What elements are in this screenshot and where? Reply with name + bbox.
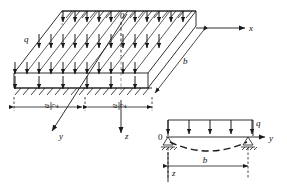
- beam-span-dimension: [168, 148, 248, 178]
- diagram-canvas: q 0 x y z b a 2 a 2: [0, 0, 287, 189]
- slab-load-label: q: [24, 34, 29, 44]
- axis-z-label: z: [124, 131, 129, 141]
- load-arrows-bottom-face: [15, 76, 135, 89]
- dimension-a-line: [14, 97, 152, 111]
- beam-load-label: q: [256, 118, 261, 128]
- beam-support-right: [241, 137, 257, 150]
- beam-deflection-curve: [170, 142, 247, 151]
- dimension-a-half-left: a 2: [42, 102, 60, 110]
- dimension-a-half-right: a 2: [110, 102, 128, 110]
- fraction-numerator-right: a: [110, 104, 119, 108]
- fraction-denominator-right: 2: [119, 104, 128, 108]
- load-arrows-middle-row: [39, 34, 159, 48]
- beam-load-arrows: [168, 120, 252, 134]
- beam-axis-y-label: y: [268, 133, 273, 143]
- engineering-diagram: q 0 x y z b a 2 a 2: [0, 0, 287, 189]
- fraction-numerator-left: a: [42, 104, 51, 108]
- axis-y-label: y: [58, 131, 63, 141]
- fraction-denominator-left: 2: [51, 104, 60, 108]
- beam-span-label: b: [203, 155, 208, 165]
- beam-origin-label: 0: [158, 132, 163, 142]
- slab-origin-label: 0: [120, 11, 125, 21]
- beam-axis-z-label: z: [171, 168, 176, 178]
- slab-outline: [14, 11, 196, 88]
- dimension-b-slab: [155, 31, 203, 93]
- support-hatching-front: [14, 88, 152, 95]
- dimension-b-slab-label: b: [183, 56, 188, 66]
- axis-x-label: x: [248, 23, 253, 33]
